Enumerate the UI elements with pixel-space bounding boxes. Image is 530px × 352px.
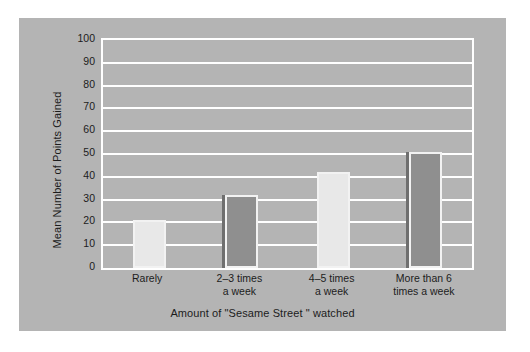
x-axis-tick-label: More than 6times a week [369,272,479,298]
bar [317,172,350,268]
chart-panel: Mean Number of Points Gained 01020304050… [19,18,506,331]
bar [133,220,166,268]
x-axis-tick-labels: Rarely2–3 timesa week4–5 timesa weekMore… [101,272,470,306]
y-axis-tick-label: 90 [55,55,95,67]
y-axis-tick-label: 70 [55,100,95,112]
y-axis-tick-labels: 0102030405060708090100 [49,38,95,266]
y-axis-tick-label: 50 [55,146,95,158]
y-axis-tick-label: 100 [55,32,95,44]
x-axis-tick-label-line: times a week [369,285,479,298]
bar [409,152,442,268]
y-axis-tick-label: 80 [55,78,95,90]
plot-area [101,38,474,270]
y-axis-tick-label: 20 [55,214,95,226]
x-axis-tick-label-line: More than 6 [369,272,479,285]
y-axis-tick-label: 40 [55,169,95,181]
x-axis-title: Amount of "Sesame Street " watched [19,307,506,319]
chart-figure: Mean Number of Points Gained 01020304050… [0,0,530,352]
y-axis-tick-label: 0 [55,260,95,272]
y-axis-tick-label: 60 [55,123,95,135]
bar [225,195,258,268]
y-axis-tick-label: 30 [55,192,95,204]
bar-series [103,40,472,268]
y-axis-tick-label: 10 [55,237,95,249]
